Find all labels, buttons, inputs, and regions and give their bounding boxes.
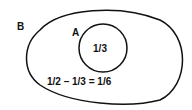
- set-a-value: 1/3: [93, 43, 107, 54]
- set-a-label: A: [72, 27, 79, 38]
- venn-diagram: B A 1/3 1/2 – 1/3 = 1/6: [0, 0, 192, 110]
- set-b-label: B: [17, 21, 24, 32]
- equation: 1/2 – 1/3 = 1/6: [47, 76, 112, 87]
